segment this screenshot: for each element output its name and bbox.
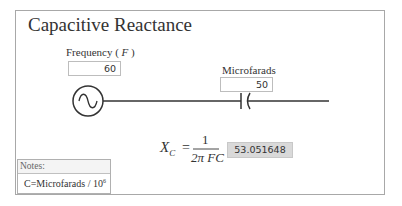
formula-lhs: XC: [160, 139, 175, 158]
result-output: 53.051648: [227, 142, 293, 158]
notes-header: Notes:: [18, 160, 110, 174]
formula-equals: =: [182, 140, 190, 156]
ac-voltage-source-icon: [73, 86, 103, 116]
notes-box: Notes: C=Microfarads / 106: [17, 159, 111, 194]
notes-text: C=Microfarads / 106: [18, 174, 110, 189]
formula-numerator: 1: [202, 132, 209, 148]
formula-denominator: 2π FC: [191, 150, 224, 166]
